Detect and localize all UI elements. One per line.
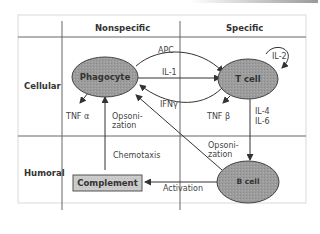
column-header-specific: Specific	[226, 23, 263, 33]
label-tnfa: TNF α	[66, 112, 89, 121]
edge-tnfa	[80, 93, 88, 103]
label-opsonization-phagocyte: Opsoni- zation	[112, 112, 143, 130]
edge-tnfb	[223, 96, 230, 103]
label-ifng: IFNγ	[160, 100, 178, 109]
row-header-humoral: Humoral	[24, 168, 65, 178]
diagram-graphics	[0, 0, 320, 234]
label-il6: IL-6	[255, 117, 270, 126]
edge-ifng	[140, 85, 222, 102]
label-il2: IL-2	[272, 52, 287, 61]
label-chemotaxis: Chemotaxis	[113, 151, 160, 160]
label-opsonization-bcell: Opsoni- zation	[208, 141, 239, 159]
label-tnfb: TNF β	[207, 112, 230, 121]
label-apc: APC	[158, 46, 174, 55]
phagocyte-label: Phagocyte	[72, 72, 138, 82]
immune-response-diagram: Nonspecific Specific Cellular Humoral Ph…	[0, 0, 320, 234]
row-header-cellular: Cellular	[24, 81, 61, 91]
label-il1: IL-1	[162, 68, 177, 77]
tcell-label: T cell	[218, 74, 278, 84]
label-il4: IL-4	[255, 107, 270, 116]
bcell-label: B cell	[218, 177, 278, 186]
column-header-nonspecific: Nonspecific	[95, 23, 150, 33]
complement-label: Complement	[73, 178, 142, 188]
label-activation: Activation	[163, 184, 203, 193]
